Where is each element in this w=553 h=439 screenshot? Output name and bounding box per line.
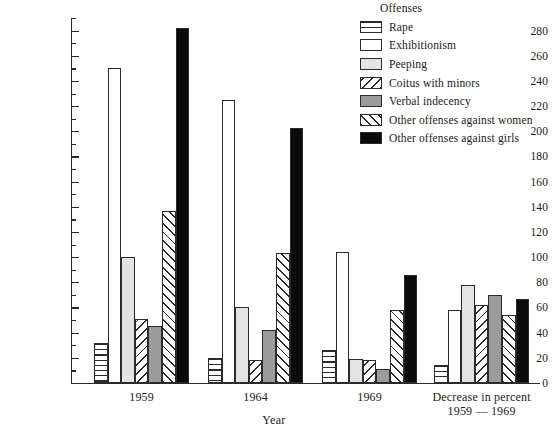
bar — [121, 257, 135, 383]
y-axis-major-tick — [71, 383, 79, 384]
legend-item-label: Other offenses against girls — [389, 132, 519, 144]
legend-items: RapeExhibitionismPeepingCoitus with mino… — [360, 18, 546, 148]
x-axis-group-label-line: Decrease in percent — [392, 390, 553, 404]
legend-item: Coitus with minors — [360, 73, 546, 92]
legend-item-label: Exhibitionism — [389, 39, 456, 51]
bar — [336, 252, 350, 383]
solid-gray-swatch — [360, 95, 382, 107]
legend-item: Peeping — [360, 55, 546, 74]
bar — [376, 369, 390, 383]
bar — [448, 310, 462, 383]
bar — [162, 211, 176, 383]
bar — [461, 285, 475, 383]
bar — [322, 350, 336, 383]
bar — [222, 100, 236, 383]
bar — [176, 28, 190, 383]
bar — [276, 253, 290, 383]
legend-item-label: Rape — [389, 21, 413, 33]
bar — [108, 68, 122, 383]
x-axis-title: Year — [0, 413, 548, 428]
solid-light-gray-swatch — [360, 58, 382, 70]
bar — [208, 358, 222, 383]
solid-white-swatch — [360, 39, 382, 51]
horizontal-lines-swatch — [360, 21, 382, 33]
solid-black-swatch — [360, 132, 382, 144]
legend-item: Other offenses against women — [360, 110, 546, 129]
bar — [148, 326, 162, 383]
bar-group — [94, 18, 189, 383]
bar — [235, 307, 249, 383]
bar — [475, 305, 489, 383]
legend-item: Verbal indecency — [360, 92, 546, 111]
bar — [390, 310, 404, 383]
chart-legend: Offenses RapeExhibitionismPeepingCoitus … — [360, 2, 546, 148]
legend-title: Offenses — [380, 2, 546, 14]
bar — [502, 315, 516, 383]
x-axis-line — [71, 383, 540, 384]
legend-item: Rape — [360, 18, 546, 37]
bar — [94, 343, 108, 383]
bar — [135, 319, 149, 383]
slash-hatch-swatch — [360, 114, 382, 126]
bar — [249, 360, 263, 383]
legend-item-label: Verbal indecency — [389, 95, 471, 107]
legend-item-label: Other offenses against women — [389, 114, 533, 126]
bar — [349, 359, 363, 383]
bar-group — [208, 18, 303, 383]
bar — [434, 365, 448, 383]
bar — [262, 330, 276, 383]
legend-item: Other offenses against girls — [360, 129, 546, 148]
bar — [516, 299, 530, 383]
bar — [488, 295, 502, 383]
bar — [363, 360, 377, 383]
bar — [290, 128, 304, 384]
legend-item-label: Peeping — [389, 58, 427, 70]
bar — [404, 275, 418, 383]
legend-item-label: Coitus with minors — [389, 77, 480, 89]
backslash-hatch-swatch — [360, 77, 382, 89]
legend-item: Exhibitionism — [360, 36, 546, 55]
